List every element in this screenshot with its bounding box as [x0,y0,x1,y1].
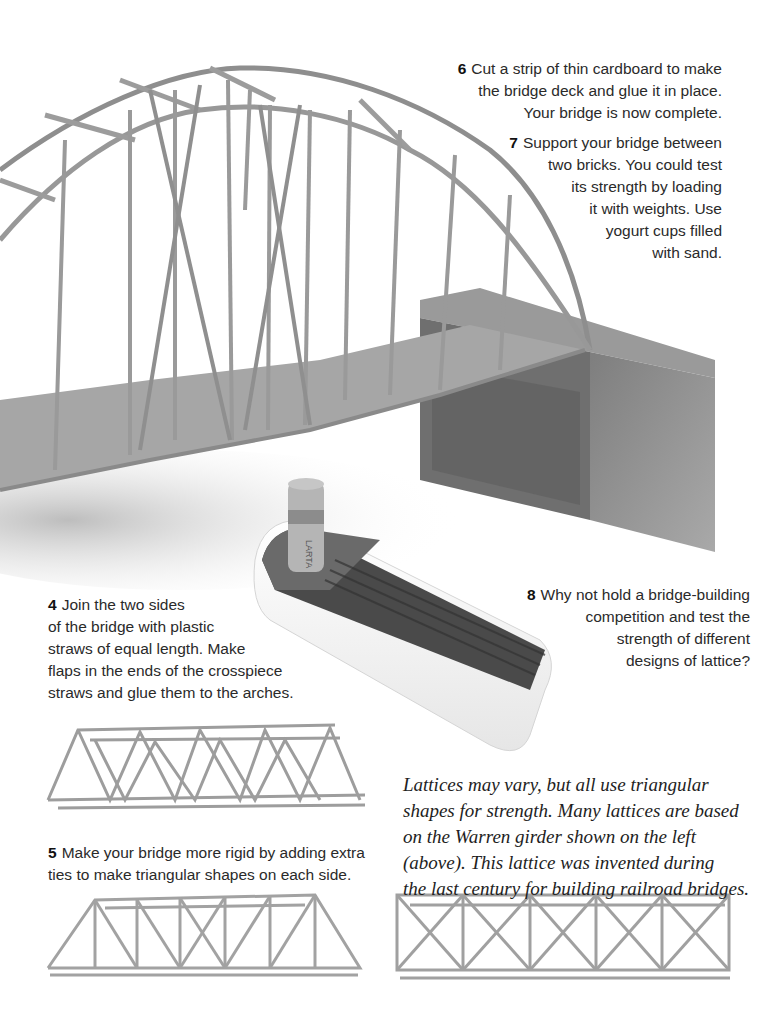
lattice-caption: Lattices may vary, but all use triangula… [403,772,782,902]
step-7-text: 7Support your bridge between two bricks.… [462,132,722,264]
cross-lattice-image [397,895,730,978]
rigid-lattice-image [48,895,360,975]
step-4-text: 4Join the two sides of the bridge with p… [48,594,388,704]
step-6-text: 6Cut a strip of thin cardboard to make t… [392,58,722,124]
cork-label: LARTA [304,540,314,568]
step-8-text: 8Why not hold a bridge-building competit… [450,584,750,672]
step-number: 4 [48,596,57,613]
step-5-text: 5Make your bridge more rigid by adding e… [48,842,408,886]
step-number: 5 [48,844,57,861]
step-number: 7 [509,134,518,151]
step-number: 6 [458,60,467,77]
step-number: 8 [527,586,536,603]
warren-girder-image [48,725,365,808]
